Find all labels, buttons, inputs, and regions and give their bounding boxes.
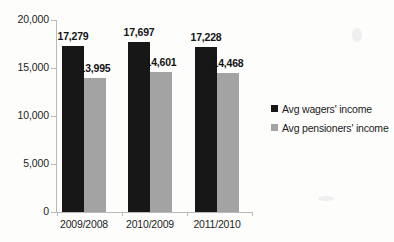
y-axis-tick-label: 20,000: [1, 13, 49, 25]
plot-area: [57, 20, 253, 212]
legend-item[interactable]: Avg wagers' income: [271, 99, 389, 118]
bar-chart: 05,00010,00015,00020,000 2009/20082010/2…: [0, 0, 394, 242]
bar-value-label: 17,697: [109, 26, 169, 38]
y-axis-tick: [51, 164, 56, 165]
y-axis-tick-label: 15,000: [1, 61, 49, 73]
legend-swatch-gray-icon: [271, 124, 278, 131]
bar-value-label: 17,228: [176, 31, 236, 43]
legend-item-label: Avg pensioners' income: [282, 122, 389, 134]
x-axis-tick: [252, 212, 253, 216]
legend-item-label: Avg wagers' income: [282, 103, 372, 115]
x-axis-line: [56, 212, 253, 213]
bar-pensioners: [150, 72, 172, 212]
y-axis-tick: [51, 20, 56, 21]
scan-artifact: [352, 28, 362, 42]
x-axis-tick-label: 2011/2010: [177, 218, 257, 230]
x-axis-tick: [122, 212, 123, 216]
bar-value-label: 17,279: [43, 30, 103, 42]
y-axis-tick: [51, 212, 56, 213]
y-axis-tick: [51, 68, 56, 69]
bar-pensioners: [84, 78, 106, 212]
scan-artifact: [318, 196, 334, 201]
y-axis-tick: [51, 116, 56, 117]
y-axis-tick-label: 0: [1, 205, 49, 217]
y-axis-tick-label: 5,000: [1, 157, 49, 169]
bar-wagers: [195, 47, 217, 212]
legend-item[interactable]: Avg pensioners' income: [271, 118, 389, 137]
chart-legend: Avg wagers' incomeAvg pensioners' income: [271, 99, 389, 137]
bar-value-label: 13,995: [65, 62, 125, 74]
legend-swatch-black-icon: [271, 105, 278, 112]
bar-pensioners: [217, 73, 239, 212]
y-axis-tick-label: 10,000: [1, 109, 49, 121]
bar-value-label: 14,468: [198, 57, 258, 69]
x-axis-tick: [57, 212, 58, 216]
bar-value-label: 14,601: [131, 56, 191, 68]
x-axis-tick: [187, 212, 188, 216]
